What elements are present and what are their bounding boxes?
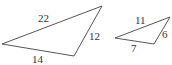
large-right-side-label: 12 xyxy=(89,30,100,42)
small-right-side-label: 6 xyxy=(162,28,168,40)
large-triangle xyxy=(2,6,102,56)
large-top-side-label: 22 xyxy=(38,12,49,24)
large-bottom-side-label: 14 xyxy=(32,53,44,65)
similar-triangles-diagram: 22 12 14 11 6 7 xyxy=(0,0,172,65)
small-bottom-side-label: 7 xyxy=(131,42,137,54)
small-top-side-label: 11 xyxy=(135,14,146,26)
